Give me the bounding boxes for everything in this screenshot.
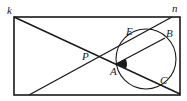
line-bottom-left-to-n <box>29 17 172 95</box>
label-E: E <box>125 25 133 37</box>
diagonal-k-to-bottom-right <box>14 17 180 94</box>
segment-AB <box>116 38 165 64</box>
geometry-diagram: k n P A E B C <box>0 0 187 101</box>
label-B: B <box>166 27 173 39</box>
label-P: P <box>81 50 89 62</box>
label-C: C <box>160 74 168 86</box>
label-A: A <box>109 65 117 77</box>
label-k: k <box>7 4 13 16</box>
label-n: n <box>172 2 178 14</box>
